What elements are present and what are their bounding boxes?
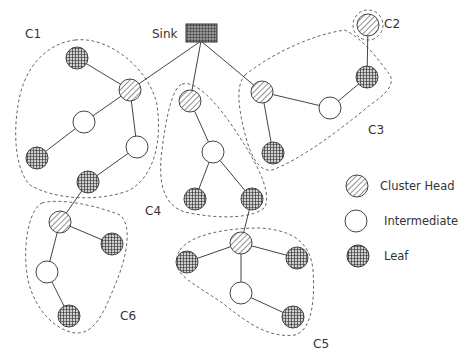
legend-intermediate-icon xyxy=(345,210,367,232)
sink-label: Sink xyxy=(152,27,178,41)
legend-cluster-head-label: Cluster Head xyxy=(380,179,455,193)
intermediate-node xyxy=(202,141,224,163)
intermediate-node xyxy=(126,136,148,158)
leaf-node xyxy=(58,305,80,327)
legend-intermediate-label: Intermediate xyxy=(384,214,458,228)
leaf-node xyxy=(356,66,378,88)
sink-node xyxy=(186,24,217,42)
leaf-node xyxy=(26,147,48,169)
cluster-head-node xyxy=(49,211,71,233)
cluster-tree-diagram: Sink C1 C2 C3 C4 C5 C6 Cluster Head Inte… xyxy=(0,0,468,363)
edge-sink-c3_ch xyxy=(201,41,262,92)
cluster-label-c6: C6 xyxy=(120,309,136,323)
leaf-node xyxy=(282,306,304,328)
leaf-node xyxy=(101,233,123,255)
leaf-node xyxy=(241,188,263,210)
cluster-label-c1: C1 xyxy=(25,27,41,41)
cluster-label-c4: C4 xyxy=(145,204,161,218)
leaf-node xyxy=(77,171,99,193)
legend-leaf-label: Leaf xyxy=(384,249,409,263)
cluster-label-c5: C5 xyxy=(313,337,329,351)
cluster-head-node xyxy=(251,81,273,103)
edge-sink-c1_ch xyxy=(130,41,201,90)
leaf-node xyxy=(184,188,206,210)
intermediate-node xyxy=(73,111,95,133)
legend-leaf-icon xyxy=(347,245,369,267)
leaf-node xyxy=(176,251,198,273)
cluster-label-c3: C3 xyxy=(368,123,384,137)
leaf-node xyxy=(262,142,284,164)
cluster-head-node xyxy=(230,232,252,254)
nodes xyxy=(26,14,379,328)
legend: Cluster Head Intermediate Leaf xyxy=(345,175,458,267)
cluster-head-node xyxy=(179,90,201,112)
cluster-head-node xyxy=(119,79,141,101)
legend-cluster-head-icon xyxy=(346,175,368,197)
cluster-label-c2: C2 xyxy=(384,17,400,31)
cluster-head-node xyxy=(357,14,379,36)
intermediate-node xyxy=(36,261,58,283)
leaf-node xyxy=(286,247,308,269)
intermediate-node xyxy=(319,97,341,119)
leaf-node xyxy=(66,47,88,69)
intermediate-node xyxy=(230,282,252,304)
